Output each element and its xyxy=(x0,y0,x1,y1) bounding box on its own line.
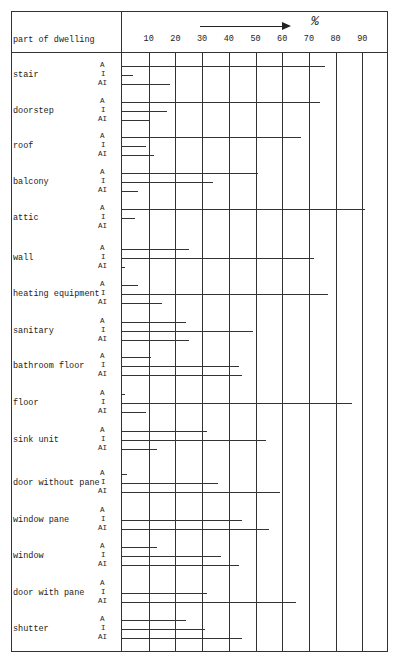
gridline xyxy=(256,52,257,652)
series-label: A xyxy=(100,244,105,252)
bar-a xyxy=(122,322,186,323)
bar-ai xyxy=(122,120,149,121)
series-label: AI xyxy=(98,370,107,378)
series-label: A xyxy=(100,132,105,140)
series-label: AI xyxy=(98,524,107,532)
series-label: AI xyxy=(98,487,107,495)
series-label: I xyxy=(101,177,106,185)
series-label: I xyxy=(101,588,106,596)
gridline xyxy=(149,52,150,652)
bar-ai xyxy=(122,449,157,450)
series-label: AI xyxy=(98,115,107,123)
bar-a xyxy=(122,249,189,250)
gridline xyxy=(175,52,176,652)
series-label: I xyxy=(101,398,106,406)
series-label: A xyxy=(100,506,105,514)
bar-a xyxy=(122,285,138,286)
bar-ai xyxy=(122,267,125,268)
series-label: AI xyxy=(98,633,107,641)
bar-ai xyxy=(122,602,296,603)
bar-i xyxy=(122,520,242,521)
bar-a xyxy=(122,102,320,103)
series-label: A xyxy=(100,204,105,212)
series-label: I xyxy=(101,253,106,261)
gridline xyxy=(362,52,363,652)
bar-a xyxy=(122,137,301,138)
bar-i xyxy=(122,440,266,441)
series-label: I xyxy=(101,326,106,334)
series-label: I xyxy=(101,624,106,632)
bar-ai xyxy=(122,492,280,493)
series-label: AI xyxy=(98,186,107,194)
bar-ai xyxy=(122,84,170,85)
bar-i xyxy=(122,218,135,219)
x-tick-label: 90 xyxy=(357,34,367,44)
bar-ai xyxy=(122,303,162,304)
series-label: A xyxy=(100,280,105,288)
bar-ai xyxy=(122,638,242,639)
series-label: I xyxy=(101,478,106,486)
arrowhead-icon xyxy=(282,22,291,30)
x-tick-label: 50 xyxy=(250,34,260,44)
series-label: A xyxy=(100,317,105,325)
category-label: shutter xyxy=(13,624,49,634)
category-label: roof xyxy=(13,141,33,151)
bar-i xyxy=(122,258,314,259)
category-label: sink unit xyxy=(13,435,59,445)
series-label: AI xyxy=(98,444,107,452)
series-label: I xyxy=(101,141,106,149)
series-label: A xyxy=(100,61,105,69)
category-label: balcony xyxy=(13,177,49,187)
category-label: stair xyxy=(13,70,39,80)
bar-i xyxy=(122,182,213,183)
series-label: A xyxy=(100,542,105,550)
bar-a xyxy=(122,431,207,432)
bar-a xyxy=(122,209,365,210)
series-label: I xyxy=(101,551,106,559)
series-label: A xyxy=(100,579,105,587)
series-label: AI xyxy=(98,597,107,605)
category-label: floor xyxy=(13,398,39,408)
bar-i xyxy=(122,593,207,594)
bar-a xyxy=(122,66,325,67)
category-label: door without pane xyxy=(13,478,100,488)
bar-a xyxy=(122,173,258,174)
bar-i xyxy=(122,331,253,332)
category-label: heating equipment xyxy=(13,289,100,299)
series-label: A xyxy=(100,469,105,477)
x-tick-label: 30 xyxy=(197,34,207,44)
x-tick-label: 80 xyxy=(330,34,340,44)
series-label: I xyxy=(101,106,106,114)
series-label: A xyxy=(100,168,105,176)
series-label: AI xyxy=(98,150,107,158)
series-label: A xyxy=(100,352,105,360)
header-divider xyxy=(11,52,388,53)
bar-i xyxy=(122,294,328,295)
series-label: A xyxy=(100,389,105,397)
bar-ai xyxy=(122,565,239,566)
bar-i xyxy=(122,483,218,484)
bar-a xyxy=(122,474,127,475)
gridline xyxy=(229,52,230,652)
series-label: I xyxy=(101,70,106,78)
series-label: AI xyxy=(98,79,107,87)
unit-label: % xyxy=(311,14,319,29)
series-label: AI xyxy=(98,222,107,230)
x-tick-label: 20 xyxy=(170,34,180,44)
series-label: I xyxy=(101,289,106,297)
bar-i xyxy=(122,629,205,630)
series-label: AI xyxy=(98,560,107,568)
bar-ai xyxy=(122,340,189,341)
series-label: AI xyxy=(98,298,107,306)
bar-i xyxy=(122,75,133,76)
bar-i xyxy=(122,403,352,404)
bar-a xyxy=(122,547,157,548)
category-label: wall xyxy=(13,253,33,263)
series-label: A xyxy=(100,97,105,105)
bar-i xyxy=(122,111,167,112)
gridline xyxy=(309,52,310,652)
direction-arrow-icon xyxy=(200,26,286,27)
series-label: AI xyxy=(98,335,107,343)
bar-i xyxy=(122,146,146,147)
series-label: I xyxy=(101,361,106,369)
